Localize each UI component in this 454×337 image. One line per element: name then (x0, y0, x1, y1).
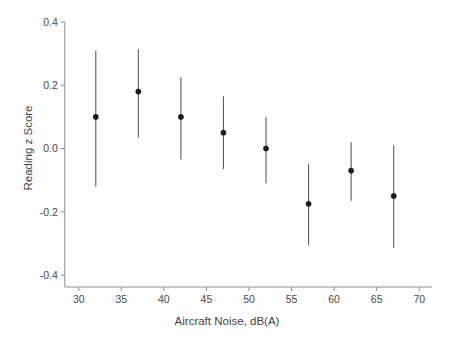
error-bar-plot: 303540455055606570 -0.4-0.20.00.20.4 Air… (0, 0, 454, 337)
y-tick-label: 0.2 (43, 79, 58, 91)
y-tick-label: 0.0 (43, 142, 58, 154)
data-series (93, 49, 396, 248)
y-tick-labels: -0.4-0.20.00.20.4 (40, 16, 58, 281)
data-point-group (391, 145, 396, 248)
data-point-group (221, 96, 226, 169)
data-point-marker (349, 168, 354, 173)
data-point-marker (306, 201, 311, 206)
data-point-group (263, 117, 268, 183)
x-axis-title: Aircraft Noise, dB(A) (175, 315, 280, 327)
x-tick-label: 60 (328, 293, 340, 305)
data-point-marker (178, 114, 183, 119)
x-tick-label: 50 (243, 293, 255, 305)
data-point-group (178, 77, 183, 159)
data-point-group (349, 142, 354, 201)
x-tick-label: 70 (413, 293, 425, 305)
data-point-marker (136, 89, 141, 94)
y-tick-label: 0.4 (43, 16, 58, 28)
data-point-marker (93, 114, 98, 119)
data-point-group (136, 49, 141, 138)
chart-figure: 303540455055606570 -0.4-0.20.00.20.4 Air… (0, 0, 454, 337)
data-point-marker (391, 193, 396, 198)
x-tick-label: 45 (201, 293, 213, 305)
x-tick-labels: 303540455055606570 (73, 293, 425, 305)
x-tick-label: 55 (286, 293, 298, 305)
tick-marks (61, 22, 419, 291)
data-point-marker (263, 146, 268, 151)
x-tick-label: 65 (371, 293, 383, 305)
y-tick-label: -0.2 (40, 206, 58, 218)
data-point-group (306, 164, 311, 245)
y-tick-label: -0.4 (40, 269, 58, 281)
y-axis-title: Reading z Score (22, 105, 34, 190)
axes (65, 22, 432, 287)
x-tick-label: 35 (115, 293, 127, 305)
data-point-marker (221, 130, 226, 135)
data-point-group (93, 50, 98, 186)
x-tick-label: 30 (73, 293, 85, 305)
x-tick-label: 40 (158, 293, 170, 305)
